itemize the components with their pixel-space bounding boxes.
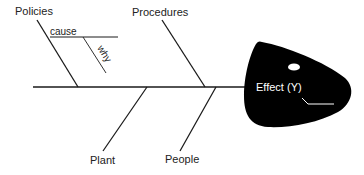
fishbone-diagram: Policies cause why Procedures Plant Peop…: [0, 0, 364, 175]
cause-label: cause: [50, 26, 77, 37]
fish-eye-icon: [288, 63, 300, 70]
effect-label: Effect (Y): [256, 81, 302, 93]
bone-people: [180, 87, 216, 151]
category-label-people: People: [165, 153, 199, 165]
bone-plant: [103, 87, 147, 151]
category-label-plant: Plant: [90, 154, 115, 166]
why-label: why: [95, 42, 114, 64]
category-label-procedures: Procedures: [132, 6, 189, 18]
category-label-policies: Policies: [15, 5, 53, 17]
bone-procedures: [162, 20, 205, 87]
